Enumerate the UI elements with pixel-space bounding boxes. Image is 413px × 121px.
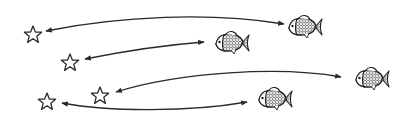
connection-arrow-4 — [62, 102, 247, 110]
connection-arrow-3 — [116, 72, 341, 92]
connection-arrow-2 — [85, 42, 204, 59]
star-icon — [91, 87, 108, 103]
fish-icon — [259, 87, 292, 110]
star-fish-diagram: Star-to-fish matching — [0, 0, 413, 121]
connection-arrow-1 — [46, 17, 284, 31]
star-icon — [38, 93, 55, 109]
star-icon — [61, 54, 78, 70]
fish-icon — [289, 15, 322, 38]
fish-icon — [356, 67, 389, 90]
star-icon — [24, 26, 41, 42]
fish-icon — [216, 31, 249, 54]
